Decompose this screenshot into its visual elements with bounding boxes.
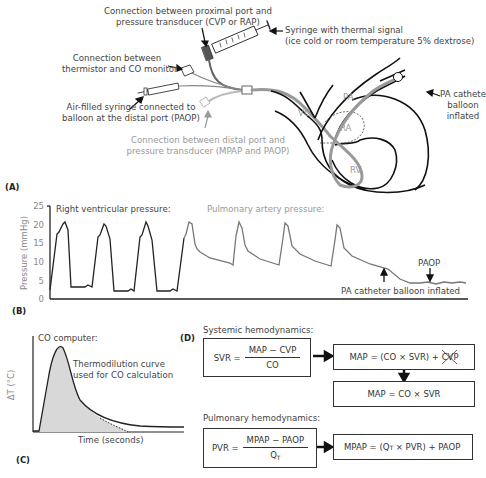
label-line: Connection between distal port and [118, 135, 298, 146]
pvr-formula-box: PVR = MPAP − PAOP QT [203, 428, 317, 468]
svg-text:15: 15 [33, 238, 44, 248]
svg-text:5: 5 [39, 276, 44, 286]
label-thermal-syringe: Syringe with thermal signal (ice cold or… [285, 25, 474, 47]
map-simple-text: MAP = CO × SVR [367, 389, 440, 399]
panel-letter-d: (D) [180, 333, 195, 343]
thermodilution-label: Thermodilution curve used for CO calcula… [73, 359, 173, 381]
panel-letter-b: (B) [12, 306, 26, 316]
label-pa: PA [343, 92, 354, 103]
svr-fraction: MAP − CVP CO [245, 345, 301, 370]
label-line: PA catheter [440, 89, 486, 100]
label-line: (ice cold or room temperature 5% dextros… [285, 36, 474, 47]
label-distal-port: Connection between distal port and press… [118, 135, 298, 157]
co-computer-title: CO computer: [38, 333, 98, 344]
label-line: balloon at the distal port (PAOP) [56, 113, 206, 124]
label-line: balloon [440, 100, 486, 111]
label-thermistor: Connection between thermistor and CO mon… [62, 53, 172, 75]
struck-cvp: CVP [442, 352, 459, 362]
pvr-lhs: PVR = [212, 443, 239, 453]
y-ticks: 25 20 15 10 5 0 [33, 201, 44, 304]
label-proximal-port: Connection between proximal port and pre… [88, 6, 288, 28]
label-line: pressure transducer (CVP or RAP) [88, 17, 288, 28]
pvr-denominator: QT [270, 448, 280, 461]
pressure-ylabel: Pressure (mmHg) [19, 216, 29, 290]
label-line: Syringe with thermal signal [285, 25, 474, 36]
svg-text:10: 10 [33, 257, 44, 267]
label-vc: VC [298, 108, 310, 119]
pvr-numerator: MPAP − PAOP [243, 435, 308, 448]
svr-lhs: SVR = [214, 353, 241, 363]
label-line: inflated [440, 111, 486, 122]
pvr-fraction: MPAP − PAOP QT [243, 435, 308, 461]
label-air-syringe: Air-filled syringe connected to balloon … [56, 102, 206, 124]
svg-text:20: 20 [33, 220, 44, 230]
air-syringe-icon [138, 83, 179, 95]
label-line: Connection between proximal port and [88, 6, 288, 17]
panel-letter-a: (A) [5, 182, 19, 192]
label-line: used for CO calculation [73, 370, 173, 381]
strike-through-icon [440, 348, 460, 366]
rv-pressure-label: Right ventricular pressure: [56, 204, 171, 215]
svr-formula-box: SVR = MAP − CVP CO [203, 338, 311, 377]
pa-pressure-trace [184, 222, 466, 284]
co-xlabel: Time (seconds) [78, 435, 144, 446]
map-full-formula-box: MAP = (CO × SVR) + CVP [333, 344, 475, 370]
map-full-text: MAP = (CO × SVR) + [349, 352, 441, 362]
label-line: Air-filled syringe connected to [56, 102, 206, 113]
svg-text:0: 0 [39, 294, 44, 304]
map-simple-formula-box: MAP = CO × SVR [333, 381, 475, 407]
q-text: Q [270, 450, 277, 460]
balloon-icon [394, 73, 403, 82]
label-line: pressure transducer (MPAP and PAOP) [118, 146, 298, 157]
systemic-title: Systemic hemodynamics: [203, 325, 313, 336]
co-ylabel: ΔT (°C) [6, 370, 16, 401]
balloon-inflated-label: PA catheter balloon inflated [341, 286, 460, 297]
label-balloon: PA catheter balloon inflated [440, 89, 486, 122]
svr-numerator: MAP − CVP [245, 345, 301, 358]
label-line: Connection between [62, 53, 172, 64]
label-rv: RV [350, 165, 361, 176]
label-line: Thermodilution curve [73, 359, 173, 370]
pa-pressure-label: Pulmonary artery pressure: [207, 204, 324, 215]
label-line: thermistor and CO monitor [62, 64, 172, 75]
q-subscript: T [277, 454, 281, 461]
label-ra: RA [340, 123, 352, 134]
rv-pressure-trace [50, 222, 184, 291]
mpap-formula-box: MPAP = (QT × PVR) + PAOP [333, 434, 473, 460]
panel-letter-c: (C) [16, 455, 30, 465]
pulmonary-title: Pulmonary hemodynamics: [203, 413, 320, 424]
mpap-text-a: MPAP = (Q [344, 442, 389, 452]
svr-denominator: CO [266, 358, 279, 370]
paop-label: PAOP [418, 258, 440, 269]
svg-text:25: 25 [33, 201, 44, 211]
mpap-text-b: × PVR) + PAOP [393, 442, 460, 452]
